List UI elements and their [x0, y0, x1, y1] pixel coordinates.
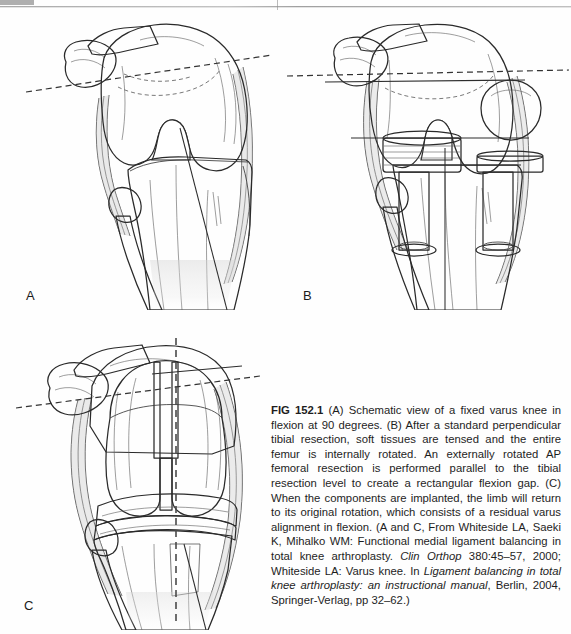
panel-label-c: C [24, 598, 34, 613]
panel-c-svg [14, 330, 276, 630]
resected-proximal-tibia [393, 165, 522, 310]
external-rotation-solid-line [325, 80, 525, 82]
page-tick-artifact [277, 0, 278, 10]
rotation-solid-reference-line [152, 366, 242, 374]
panel-b-illustration: B [285, 10, 571, 310]
epicondylar-dashed-line [287, 70, 569, 76]
distal-femur-condyles [101, 24, 247, 171]
panel-b-svg [285, 10, 571, 310]
intercondylar-notch [421, 120, 452, 160]
panel-label-a: A [26, 288, 35, 303]
panel-c-illustration: C [14, 330, 276, 630]
page-top-rule-secondary [0, 7, 571, 8]
femoral-shaft [357, 24, 427, 51]
panel-a-svg [0, 10, 280, 310]
panel-a-illustration: A [0, 10, 280, 310]
femoral-shaft [88, 26, 158, 55]
figure-caption: FIG 152.1 (A) Schematic view of a fixed … [271, 403, 561, 607]
figure-page: A [0, 0, 571, 634]
panel-label-b: B [303, 288, 312, 303]
intercondylar-box [160, 458, 172, 510]
figure-caption-body: (A) Schematic view of a fixed varus knee… [271, 404, 561, 606]
tibial-shaft-fade [150, 260, 236, 310]
tensor-vertical-post-medial [392, 172, 436, 256]
femoral-component [106, 361, 226, 517]
tensor-vertical-post-lateral [476, 172, 520, 256]
intercondylar-notch [152, 120, 190, 160]
tibial-tray [94, 516, 236, 540]
figure-caption-id: FIG 152.1 [271, 404, 323, 416]
scan-corner-artifact [0, 0, 34, 5]
lateral-soft-tissue-band [224, 67, 252, 284]
tensor-spacer-plate-lateral [477, 151, 543, 172]
patella [64, 40, 116, 87]
caption-segment: Clin Orthop [400, 550, 461, 562]
caption-segment: (A) Schematic view of a fixed varus knee… [271, 404, 561, 562]
